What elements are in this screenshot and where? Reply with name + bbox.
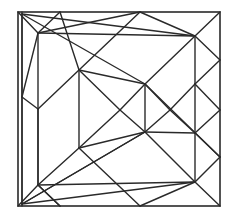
diagram-line (145, 132, 195, 182)
diagram-line (79, 110, 120, 148)
diagram-line (120, 84, 145, 110)
diagram-line (79, 12, 140, 70)
diagram-line (195, 12, 220, 36)
line-group (18, 12, 220, 206)
diagram-line (79, 132, 145, 148)
diagram-line (195, 110, 220, 133)
diagram-line (195, 182, 220, 206)
diagram-line (38, 70, 79, 109)
diagram-line (120, 110, 145, 132)
diagram-line (22, 33, 38, 97)
diagram-line (145, 132, 195, 133)
diagram-line (22, 97, 38, 109)
diagram-line (79, 70, 145, 84)
diagram-line (195, 84, 220, 110)
diagram-line (170, 84, 195, 110)
diagram-line (79, 70, 120, 110)
geometric-diagram (0, 0, 243, 211)
diagram-line (38, 148, 79, 185)
diagram-line (195, 60, 220, 84)
diagram-line (145, 110, 170, 132)
diagram-line (195, 157, 220, 182)
diagram-line (195, 36, 220, 60)
diagram-line (79, 148, 140, 206)
diagram-line (145, 36, 195, 84)
diagram-line (170, 110, 195, 133)
diagram-line (195, 133, 220, 157)
